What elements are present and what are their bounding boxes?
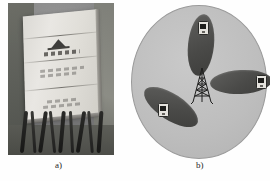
caption-panel-a: a) [55, 160, 62, 170]
triangle-logo-icon [50, 38, 66, 49]
caption-panel-b: b) [196, 160, 204, 170]
cable [31, 111, 37, 153]
antenna-photo [8, 3, 114, 155]
cable [87, 111, 94, 153]
handset-keypad [260, 85, 263, 87]
mobile-handset-icon [256, 75, 267, 89]
coaxial-cable-bundle [18, 111, 110, 155]
logo-wordmark [44, 49, 80, 56]
handset-screen [160, 106, 166, 111]
panel-seam [25, 83, 99, 91]
cell-coverage-circle [131, 5, 267, 159]
cable [69, 111, 74, 153]
panel-b-sector-diagram [128, 2, 266, 158]
antenna-panel-board [23, 9, 99, 120]
cable [38, 111, 48, 153]
cable [58, 111, 66, 153]
cable [49, 111, 56, 153]
figure-container: a) b) [0, 0, 270, 181]
lattice-tower-icon [189, 68, 215, 104]
handset-screen [200, 24, 206, 29]
cable [76, 111, 87, 153]
handset-keypad [162, 113, 165, 115]
handset-screen [258, 78, 264, 83]
panel-seam [24, 55, 98, 63]
handset-keypad [202, 31, 205, 33]
cable [97, 111, 104, 153]
cable [20, 111, 28, 153]
panel-a-photograph [8, 3, 114, 155]
panel-label-text [40, 72, 76, 78]
mobile-handset-icon [158, 103, 169, 117]
mobile-handset-icon [198, 21, 209, 35]
